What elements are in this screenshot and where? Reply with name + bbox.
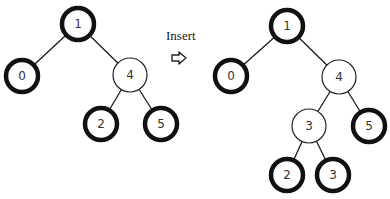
- tree-diagram: 104251043523: [0, 0, 390, 199]
- node-label: 2: [283, 168, 291, 182]
- tree-node: 4: [322, 60, 356, 94]
- node-label: 3: [329, 168, 337, 182]
- node-label: 0: [227, 69, 235, 83]
- tree-node: 3: [317, 159, 349, 191]
- nodes: 104251043523: [6, 8, 385, 191]
- edges: [22, 24, 369, 175]
- node-label: 5: [365, 119, 373, 133]
- node-label: 4: [335, 70, 343, 84]
- tree-node: 1: [62, 8, 94, 40]
- node-label: 5: [157, 117, 165, 131]
- right-arrow-outline-icon: [172, 52, 186, 64]
- node-label: 0: [18, 69, 26, 83]
- tree-node: 2: [85, 108, 117, 140]
- tree-node: 4: [113, 58, 147, 92]
- node-label: 4: [126, 68, 134, 82]
- tree-node: 5: [353, 110, 385, 142]
- node-label: 2: [97, 117, 105, 131]
- node-label: 1: [74, 17, 82, 31]
- tree-node: 1: [271, 10, 303, 42]
- tree-node: 0: [215, 60, 247, 92]
- node-label: 1: [283, 19, 291, 33]
- tree-node: 0: [6, 60, 38, 92]
- tree-node: 5: [145, 108, 177, 140]
- node-label: 3: [305, 119, 313, 133]
- tree-node: 3: [292, 109, 326, 143]
- tree-node: 2: [271, 159, 303, 191]
